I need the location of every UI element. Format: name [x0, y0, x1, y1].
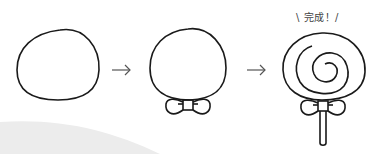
arrow-icon — [112, 65, 130, 75]
completed-caption: \ 完成！/ — [296, 9, 339, 24]
arrow-icon — [247, 65, 265, 75]
step-2-add-bow — [150, 29, 226, 114]
step-1-head-outline — [17, 30, 99, 100]
step-3-spiral-and-stick — [283, 33, 365, 145]
background-swoosh — [0, 121, 160, 154]
